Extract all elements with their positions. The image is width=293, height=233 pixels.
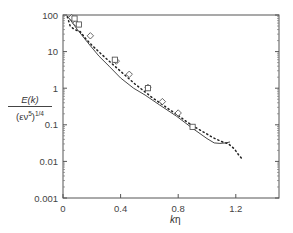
- x-tick-label: 0: [60, 203, 65, 214]
- diamond-marker: [126, 71, 132, 77]
- square-marker: [190, 124, 195, 129]
- diamond-marker: [175, 110, 181, 116]
- square-marker: [112, 57, 117, 62]
- y-tick-label: 0.01: [40, 156, 59, 167]
- square-marker: [145, 86, 150, 91]
- fraction-bar: [8, 106, 52, 107]
- diamond-marker: [87, 33, 93, 39]
- dotted-curve: [67, 17, 243, 160]
- y-tick-label: 1: [53, 83, 58, 94]
- square-marker: [76, 22, 81, 27]
- square-marker: [72, 16, 77, 21]
- diamond-marker: [159, 98, 165, 104]
- y-tick-label: 100: [42, 10, 58, 21]
- x-tick-label: 0.8: [172, 203, 185, 214]
- x-tick-label: 0.4: [114, 203, 127, 214]
- y-tick-label: 0.001: [34, 193, 58, 204]
- y-tick-label: 10: [47, 46, 58, 57]
- y-axis-title: E(k) (εν5)1/4: [4, 94, 56, 122]
- plot-frame: [63, 15, 279, 198]
- x-axis-title: kη: [170, 214, 181, 225]
- y-axis-title-numerator: E(k): [4, 94, 56, 105]
- y-axis-title-denominator: (εν5)1/4: [4, 108, 56, 122]
- x-tick-label: 1.2: [229, 203, 242, 214]
